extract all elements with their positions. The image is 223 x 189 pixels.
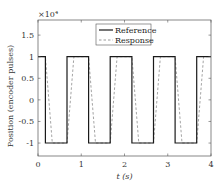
series-response-line [38, 57, 211, 143]
y-tick-label: 0 [29, 96, 34, 105]
y-tick-label: 0.5 [21, 74, 34, 83]
x-tick-label: 4 [208, 160, 213, 169]
series-reference-line [38, 57, 211, 143]
y-tick-label: -0.5 [19, 117, 34, 126]
y-tick-label: 1 [29, 53, 34, 62]
x-tick-label: 2 [122, 160, 127, 169]
x-tick-label: 3 [165, 160, 170, 169]
x-axis-label: t (s) [116, 172, 132, 181]
y-tick-label: 1.5 [21, 31, 34, 40]
y-tick-label: -1 [26, 139, 34, 148]
x-tick-label: 0 [35, 160, 40, 169]
chart: 01234-1-0.500.511.5 ×10⁴ t (s) Position … [0, 0, 223, 189]
series-layer [38, 57, 211, 143]
legend: Reference Response [96, 24, 157, 45]
x-tick-label: 1 [79, 160, 84, 169]
legend-response-label: Response [115, 36, 154, 45]
y-axis-multiplier: ×10⁴ [38, 10, 58, 19]
legend-reference-label: Reference [115, 26, 157, 35]
y-axis-label: Position (encoder pulses) [6, 45, 15, 147]
